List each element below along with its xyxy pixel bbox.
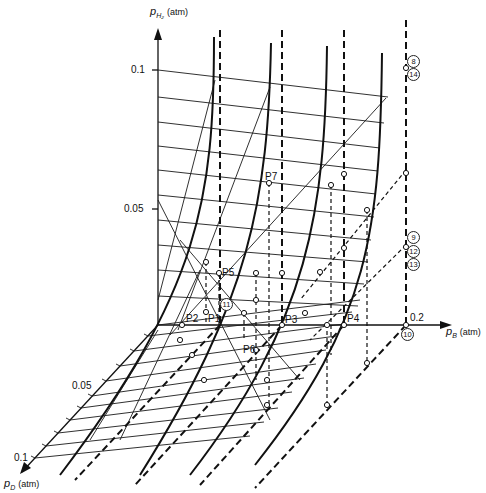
depth-axis-label: pD (atm) <box>4 478 39 491</box>
circled-label-14: 14 <box>407 68 420 81</box>
point-label-p7: P7 <box>265 172 277 182</box>
point-label-p5: P5 <box>222 268 234 278</box>
lower-grid-lines <box>35 200 360 458</box>
circled-label-8: 8 <box>407 55 420 68</box>
dashed-lines <box>75 20 406 488</box>
horizontal-axis-label: pB (atm) <box>446 326 481 339</box>
horizontal-tick-0.2: 0.2 <box>410 313 424 323</box>
point-label-p6: P6 <box>243 345 255 355</box>
point-label-p2: P2 <box>186 314 198 324</box>
point-label-p4: P4 <box>347 314 359 324</box>
point-label-p3: P3 <box>285 315 297 325</box>
circled-label-12: 12 <box>407 245 420 258</box>
point-label-p1: P1 <box>208 314 220 324</box>
circled-label-13: 13 <box>407 258 420 271</box>
vertical-tick-0.1: 0.1 <box>131 65 145 75</box>
circled-label-10: 10 <box>401 328 414 341</box>
depth-tick-0.05: 0.05 <box>72 381 91 391</box>
circled-label-11: 11 <box>220 298 233 311</box>
vertical-tick-0.05: 0.05 <box>124 204 143 214</box>
depth-tick-0.1: 0.1 <box>14 453 28 463</box>
circled-label-9: 9 <box>407 231 420 244</box>
vertical-axis-label: pH₂ (atm) <box>150 6 188 19</box>
